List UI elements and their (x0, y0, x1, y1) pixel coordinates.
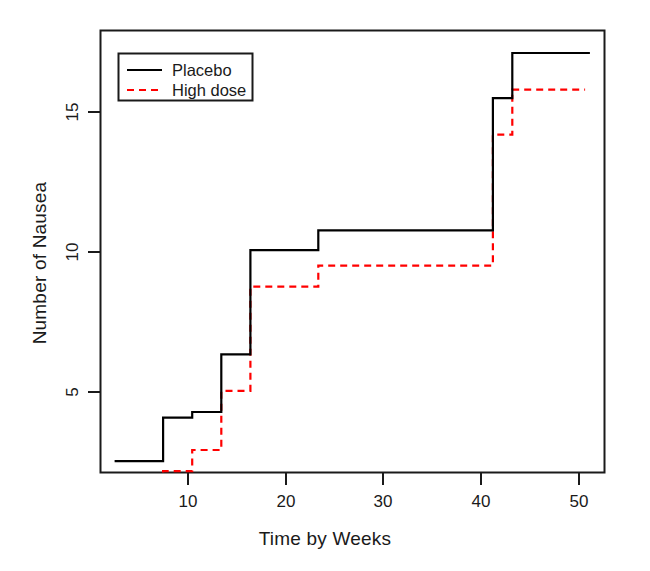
x-tick-label: 30 (374, 492, 393, 511)
x-tick-label: 50 (570, 492, 589, 511)
y-tick-label: 15 (63, 103, 82, 122)
data-series-group (115, 53, 590, 473)
step-chart: 10 20 30 40 50 5 10 15 Placebo H (0, 0, 650, 571)
series-line-high-dose (163, 90, 585, 473)
y-axis-ticks (88, 112, 100, 392)
y-axis-tick-labels: 5 10 15 (63, 103, 82, 397)
series-line-placebo (115, 53, 590, 461)
x-axis-title: Time by Weeks (0, 528, 650, 550)
x-tick-label: 20 (277, 492, 296, 511)
legend-label-high-dose: High dose (172, 81, 246, 99)
y-tick-label: 5 (63, 387, 82, 396)
chart-legend: Placebo High dose (119, 54, 253, 101)
x-tick-label: 10 (179, 492, 198, 511)
x-axis-tick-labels: 10 20 30 40 50 (179, 492, 589, 511)
legend-label-placebo: Placebo (172, 61, 232, 79)
y-tick-label: 10 (63, 243, 82, 262)
chart-figure: 10 20 30 40 50 5 10 15 Placebo H (0, 0, 650, 571)
x-axis-ticks (188, 473, 579, 485)
y-axis-title: Number of Nausea (29, 113, 51, 413)
x-tick-label: 40 (472, 492, 491, 511)
